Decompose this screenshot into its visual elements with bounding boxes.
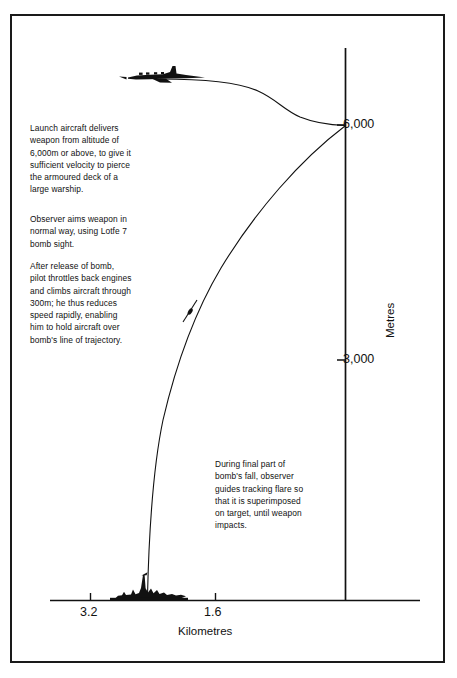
y-axis-title: Metres [384, 303, 396, 338]
note-final-guidance: During final part of bomb's fall, observ… [215, 458, 341, 532]
note-observer-aiming: Observer aims weapon in normal way, usin… [30, 213, 162, 250]
note-launch-aircraft: Launch aircraft delivers weapon from alt… [30, 122, 162, 196]
y-tick-label-3000: 3,000 [343, 352, 374, 366]
note-after-release: After release of bomb, pilot throttles b… [30, 260, 166, 346]
x-tick-label-1-6: 1.6 [204, 605, 221, 619]
diagram-page: Launch aircraft delivers weapon from alt… [0, 0, 457, 678]
aircraft-flight-path [160, 79, 345, 126]
warship-icon [110, 572, 188, 600]
x-tick-label-3-2: 3.2 [80, 605, 97, 619]
bomber-aircraft-icon [119, 66, 205, 83]
y-tick-label-6000: 6,000 [343, 117, 374, 131]
x-axis-title: Kilometres [178, 625, 232, 637]
